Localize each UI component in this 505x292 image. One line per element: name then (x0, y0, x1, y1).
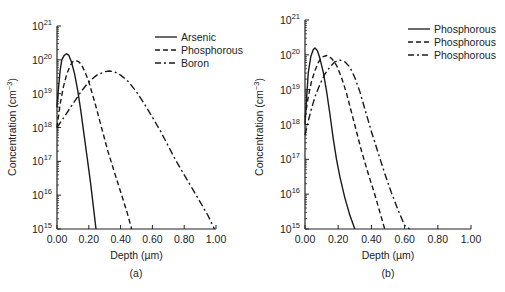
x-tick-label: 0.20 (79, 233, 100, 245)
x-axis-label: Depth (µm) (110, 249, 163, 261)
legend-label: Phosphorous (434, 36, 496, 48)
x-tick-label: 0.00 (295, 233, 316, 245)
y-tick-label: 1018 (32, 120, 52, 134)
legend-label: Boron (181, 57, 209, 69)
x-tick-label: 0.20 (328, 233, 349, 245)
x-tick-label: 0.60 (142, 233, 163, 245)
panel-caption: (a) (130, 267, 143, 279)
x-tick-label: 0.60 (394, 233, 415, 245)
panel-b: 10151016101710181019102010210.000.200.40… (252, 12, 496, 279)
y-axis-label: Concentration (cm−3) (5, 78, 18, 176)
x-tick-label: 0.40 (110, 233, 131, 245)
legend: ArsenicPhosphorousBoron (155, 31, 243, 69)
legend-label: Phosphorous (434, 23, 496, 35)
y-tick-label: 1018 (280, 117, 300, 131)
x-tick-label: 0.40 (361, 233, 382, 245)
series-dashed-line (57, 61, 132, 230)
panel-a: 10151016101710181019102010210.000.200.40… (5, 18, 243, 279)
y-axis-label: Concentration (cm−3) (252, 78, 265, 176)
y-tick-label: 1019 (32, 86, 52, 100)
legend: PhosphorousPhosphorousPhosphorous (408, 23, 496, 61)
y-tick-label: 1021 (280, 12, 300, 26)
x-tick-label: 1.00 (461, 233, 482, 245)
figure: 10151016101710181019102010210.000.200.40… (0, 0, 505, 292)
x-tick-label: 1.00 (206, 233, 227, 245)
x-tick-label: 0.80 (174, 233, 195, 245)
x-tick-label: 0.80 (428, 233, 449, 245)
y-tick-label: 1017 (32, 153, 52, 167)
series-group (305, 48, 410, 229)
series-dashdot-line (305, 60, 410, 229)
series-solid-line (305, 48, 355, 229)
series-solid-line (57, 54, 96, 229)
y-tick-label: 1016 (32, 187, 52, 201)
legend-label: Phosphorous (181, 44, 243, 56)
panel-caption: (b) (382, 267, 395, 279)
y-tick-label: 1020 (32, 52, 52, 66)
legend-label: Phosphorous (434, 49, 496, 61)
y-tick-label: 1016 (280, 186, 300, 200)
series-dashed-line (305, 56, 385, 230)
x-axis-label: Depth (µm) (362, 249, 415, 261)
chart-canvas: 10151016101710181019102010210.000.200.40… (0, 0, 505, 292)
y-tick-label: 1021 (32, 18, 52, 32)
legend-label: Arsenic (181, 31, 216, 43)
series-group (57, 54, 214, 229)
y-tick-label: 1019 (280, 82, 300, 96)
x-tick-label: 0.00 (47, 233, 68, 245)
y-tick-label: 1017 (280, 151, 300, 165)
series-dashdot-line (57, 71, 214, 229)
y-tick-label: 1020 (280, 47, 300, 61)
